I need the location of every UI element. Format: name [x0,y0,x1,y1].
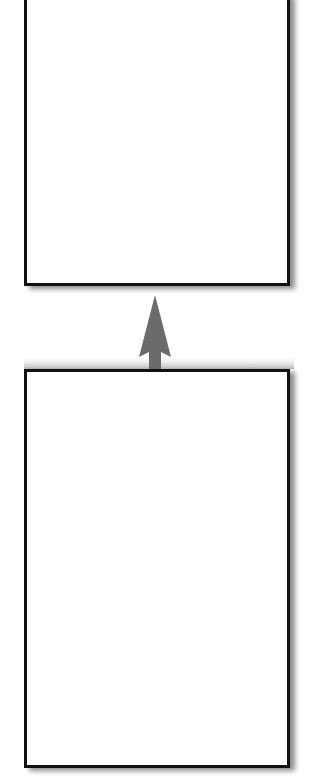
bottom-box [24,369,290,768]
